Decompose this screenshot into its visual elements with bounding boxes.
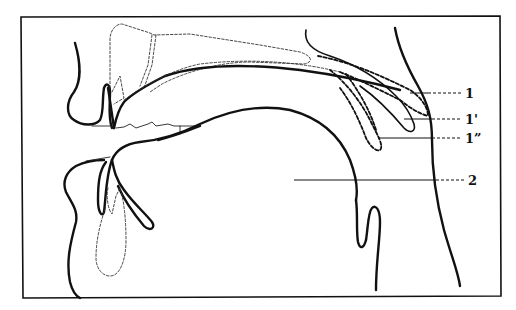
maxilla-inner-line-a bbox=[140, 35, 152, 86]
epiglottis bbox=[366, 207, 380, 290]
tongue-tip-upper bbox=[158, 126, 200, 140]
lower-tooth-root bbox=[96, 188, 126, 276]
diagram-frame bbox=[21, 16, 501, 298]
maxilla-outline bbox=[110, 24, 310, 92]
label-1: 1 bbox=[465, 86, 474, 101]
label-1-double-prime: 1” bbox=[465, 131, 482, 146]
vocal-tract-diagram: 1 1' 1” 2 bbox=[0, 0, 516, 310]
label-2: 2 bbox=[468, 173, 477, 188]
pharyngeal-wall bbox=[395, 28, 460, 286]
lower-lip-inner bbox=[112, 160, 153, 229]
label-1-prime: 1' bbox=[465, 112, 478, 127]
tongue-root bbox=[356, 200, 366, 247]
lower-incisor bbox=[98, 160, 112, 214]
maxilla-inner-line-b bbox=[144, 35, 156, 88]
upper-teeth-edge bbox=[116, 122, 196, 128]
upper-lip bbox=[68, 43, 112, 128]
tongue-surface bbox=[112, 108, 357, 200]
upper-tooth-root bbox=[112, 76, 124, 104]
